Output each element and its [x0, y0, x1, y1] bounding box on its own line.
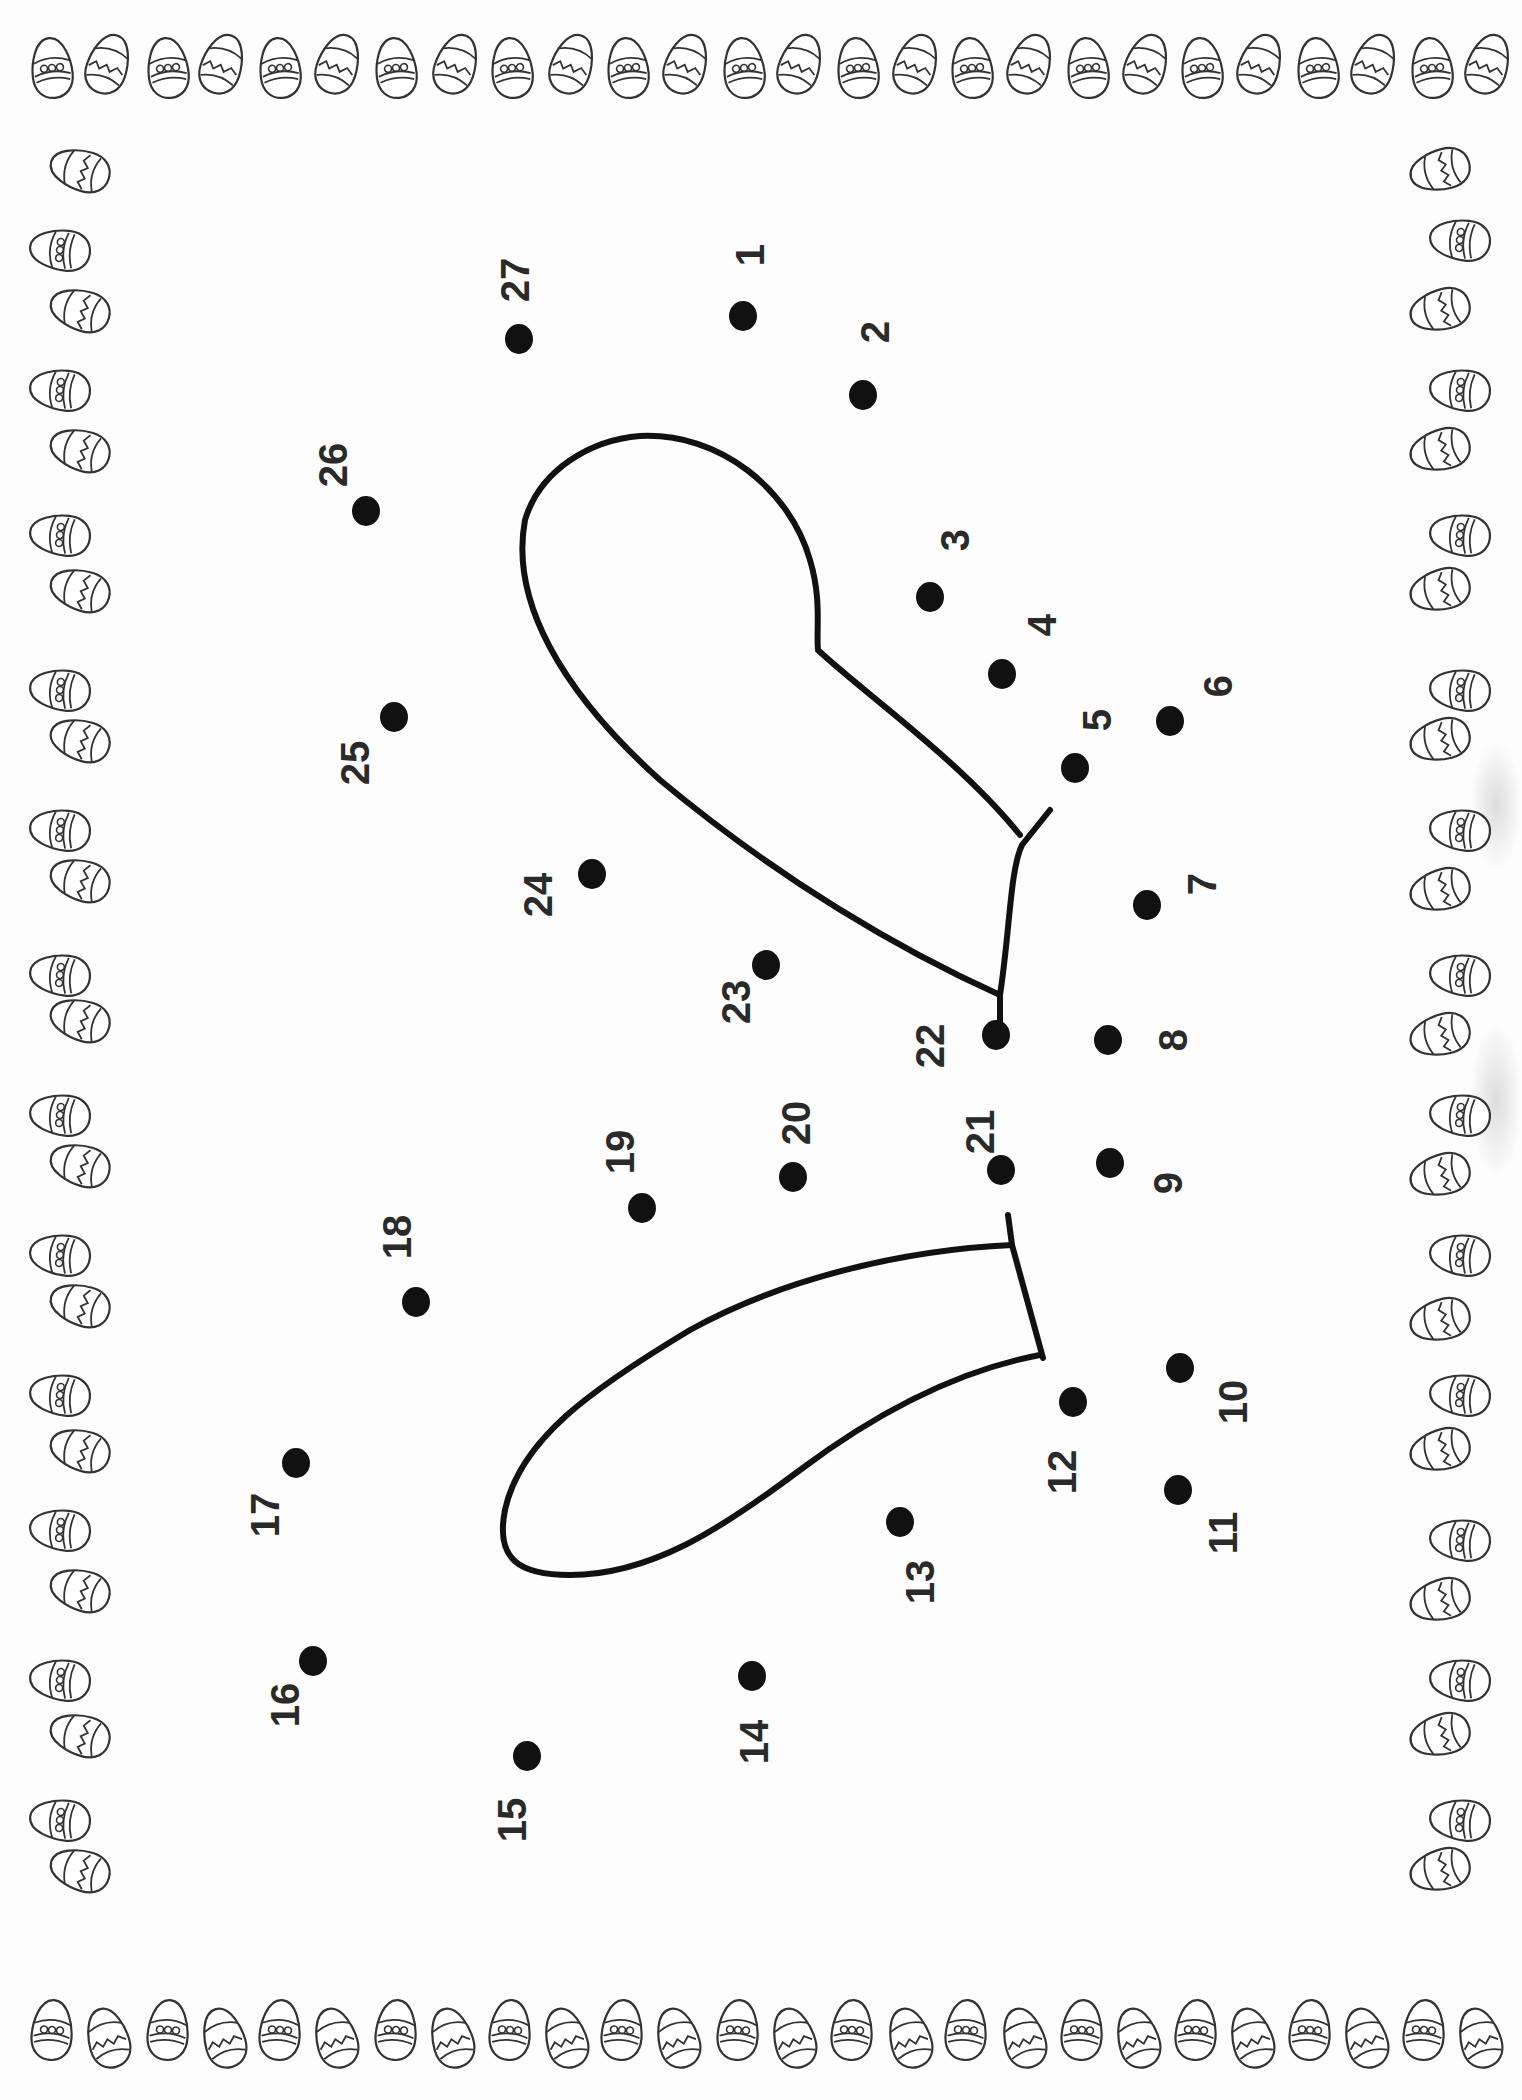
dot-27 — [505, 324, 533, 354]
dot-number-label: 2 — [855, 321, 895, 343]
dot-21 — [987, 1155, 1015, 1185]
dot-number-label: 10 — [1213, 1380, 1253, 1425]
dot-19 — [628, 1193, 656, 1223]
dot-number-label: 15 — [492, 1798, 532, 1843]
dot-number-label: 24 — [518, 873, 558, 918]
dot-16 — [299, 1646, 327, 1676]
dot-11 — [1164, 1475, 1192, 1505]
dot-3 — [916, 582, 944, 612]
dot-number-label: 1 — [730, 244, 770, 266]
dot-number-label: 9 — [1148, 1172, 1188, 1194]
dot-6 — [1156, 706, 1184, 736]
dot-number-label: 11 — [1203, 1512, 1243, 1554]
dot-5 — [1061, 753, 1089, 783]
dot-number-label: 3 — [935, 529, 975, 551]
dot-23 — [752, 950, 780, 980]
dot-number-label: 5 — [1077, 709, 1117, 731]
dot-14 — [738, 1661, 766, 1691]
dot-number-label: 12 — [1042, 1450, 1082, 1495]
dot-number-label: 26 — [313, 443, 353, 488]
dot-number-label: 17 — [245, 1493, 285, 1538]
dot-number-label: 20 — [776, 1101, 816, 1146]
dot-number-label: 6 — [1198, 675, 1238, 697]
lower-ear-outline — [503, 1245, 1040, 1575]
dot-24 — [578, 859, 606, 889]
dot-2 — [849, 380, 877, 410]
dot-20 — [779, 1162, 807, 1192]
dot-number-label: 7 — [1182, 873, 1222, 895]
dot-25 — [380, 702, 408, 732]
dot-17 — [282, 1448, 310, 1478]
dot-9 — [1096, 1148, 1124, 1178]
dot-number-label: 27 — [495, 258, 535, 303]
dot-4 — [988, 659, 1016, 689]
dot-12 — [1059, 1387, 1087, 1417]
dot-number-label: 13 — [900, 1560, 940, 1605]
upper-ear-base — [1000, 810, 1050, 995]
dot-1 — [729, 301, 757, 331]
dot-number-label: 18 — [377, 1215, 417, 1260]
upper-ear-outline — [522, 436, 1020, 1025]
dot-26 — [352, 496, 380, 526]
dot-number-label: 22 — [910, 1024, 950, 1069]
dot-13 — [886, 1507, 914, 1537]
dot-number-label: 23 — [716, 980, 756, 1025]
dot-number-label: 25 — [335, 741, 375, 786]
lower-ear-base — [1008, 1215, 1043, 1358]
bunny-ears-outline — [0, 0, 1522, 2100]
dot-18 — [402, 1287, 430, 1317]
dot-number-label: 16 — [265, 1683, 305, 1728]
dot-7 — [1133, 890, 1161, 920]
dot-number-label: 19 — [600, 1130, 640, 1175]
worksheet-page: 1234567891011121314151617181920212223242… — [0, 0, 1522, 2100]
dot-number-label: 14 — [734, 1720, 774, 1765]
dot-8 — [1094, 1025, 1122, 1055]
dot-10 — [1166, 1353, 1194, 1383]
dot-number-label: 8 — [1153, 1029, 1193, 1051]
dot-22 — [982, 1020, 1010, 1050]
dot-15 — [513, 1741, 541, 1771]
dot-number-label: 4 — [1022, 614, 1062, 636]
dot-number-label: 21 — [960, 1110, 1000, 1155]
